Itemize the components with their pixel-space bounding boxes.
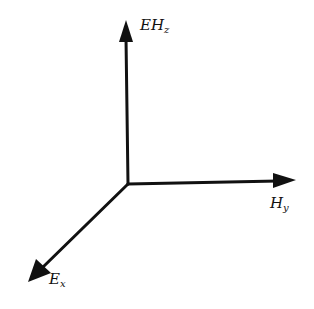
y-axis-line <box>128 181 278 184</box>
z-axis-line <box>126 38 128 184</box>
y-arrowhead-icon <box>273 173 296 188</box>
z-arrowhead-icon <box>119 20 133 42</box>
y-axis-label-sub: y <box>283 202 289 213</box>
z-axis-label-sub: z <box>164 24 169 35</box>
x-axis-label: Ex <box>49 272 66 289</box>
y-axis-label: Hy <box>270 196 289 213</box>
x-axis-label-sub: x <box>60 278 66 289</box>
z-axis-label-main: EH <box>140 16 164 34</box>
x-axis-line <box>42 184 128 268</box>
x-axis-label-main: E <box>49 270 60 288</box>
z-axis-label: EHz <box>140 18 169 35</box>
axes-diagram <box>0 0 314 309</box>
y-axis-label-main: H <box>270 194 283 212</box>
